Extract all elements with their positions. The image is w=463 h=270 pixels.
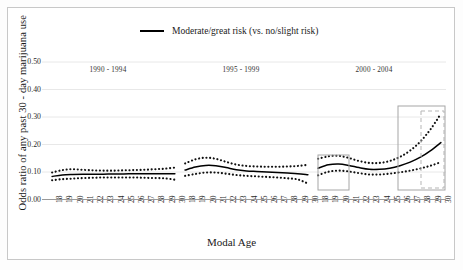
figure-container: Odds ratio of any past 30 - day marijuan… xyxy=(0,0,463,270)
chart-plot-area xyxy=(0,0,463,270)
series-1990-1994-lower-ci xyxy=(52,177,175,180)
series-1990-1994-estimate xyxy=(52,174,175,177)
x-axis-title: Modal Age xyxy=(0,236,463,248)
series-1995-1999-lower-ci xyxy=(185,172,308,183)
highlight-box-left xyxy=(318,155,349,190)
